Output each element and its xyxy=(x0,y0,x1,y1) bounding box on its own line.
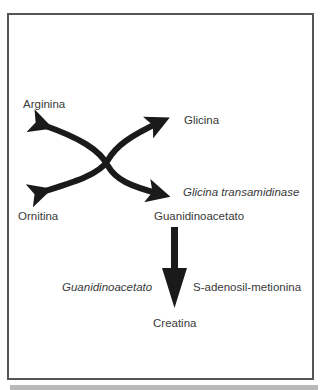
label-creatina: Creatina xyxy=(153,316,196,330)
down-arrow-shaft-icon xyxy=(171,227,178,269)
label-glicina-transamidinase: Glicina transamidinase xyxy=(183,185,299,199)
label-arginina: Arginina xyxy=(23,97,65,111)
label-guanidinoacetato: Guanidinoacetato xyxy=(154,209,244,223)
label-s-adenosil-metionina: S-adenosil-metionina xyxy=(193,280,301,294)
label-ornitina: Ornitina xyxy=(18,209,58,223)
label-glicina: Glicina xyxy=(184,113,219,127)
label-guanidinoacetato-enzyme: Guanidinoacetato xyxy=(62,280,152,294)
down-arrow-head-icon xyxy=(162,268,187,308)
